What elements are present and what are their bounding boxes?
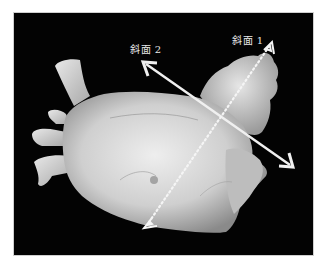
plane-1-label: 斜面 1 [232, 32, 264, 47]
right-lobe [225, 148, 262, 214]
plane-1-arrowhead-top [264, 42, 274, 54]
plane-2-label: 斜面 2 [130, 41, 162, 56]
heart-rendering [0, 0, 322, 266]
valve-orifice [150, 176, 158, 184]
left-vein-middle [32, 129, 66, 146]
superior-vein [55, 59, 90, 106]
